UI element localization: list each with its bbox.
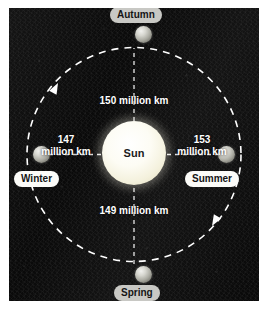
sun-body: Sun bbox=[102, 121, 166, 185]
distance-label-winter-line2: million km bbox=[25, 146, 107, 158]
space-background-panel: Sun Autumn Summer Spring Winter 150 mill… bbox=[9, 8, 259, 301]
distance-label-winter-line1: 147 bbox=[25, 134, 107, 146]
orbit-diagram-figure: Sun Autumn Summer Spring Winter 150 mill… bbox=[0, 0, 269, 316]
distance-label-autumn-line1: 150 million km bbox=[72, 95, 196, 107]
season-label-autumn: Autumn bbox=[110, 8, 162, 23]
season-label-winter: Winter bbox=[14, 171, 59, 187]
season-label-summer: Summer bbox=[185, 171, 239, 187]
distance-label-autumn: 150 million km bbox=[72, 95, 196, 107]
distance-label-spring: 149 million km bbox=[72, 205, 196, 217]
distance-label-winter: 147 million km bbox=[25, 134, 107, 158]
distance-label-summer: 153 million km bbox=[161, 134, 243, 158]
distance-label-summer-line2: million km bbox=[161, 146, 243, 158]
distance-label-summer-line1: 153 bbox=[161, 134, 243, 146]
season-label-spring: Spring bbox=[114, 285, 160, 301]
distance-label-spring-line1: 149 million km bbox=[72, 205, 196, 217]
planet-marker-autumn bbox=[135, 26, 152, 43]
orbit-direction-arrow-lower-right bbox=[208, 214, 221, 228]
sun-label: Sun bbox=[123, 147, 144, 159]
planet-marker-spring bbox=[135, 266, 152, 283]
